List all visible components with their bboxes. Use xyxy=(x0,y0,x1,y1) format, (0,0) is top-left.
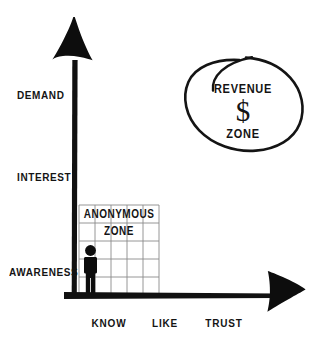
anonymous-zone-label-line2: ZONE xyxy=(79,225,159,237)
diagram-canvas: DEMAND INTEREST AWARENESS KNOW LIKE TRUS… xyxy=(0,0,332,355)
y-axis-arrowhead-icon xyxy=(52,17,92,60)
y-axis-line xyxy=(72,60,78,297)
revenue-zone-label-line2: ZONE xyxy=(203,127,283,140)
y-axis-label-demand: DEMAND xyxy=(17,89,65,101)
x-axis-label-know: KNOW xyxy=(84,317,134,329)
dollar-sign-icon: $ xyxy=(203,97,283,126)
y-axis-label-interest: INTEREST xyxy=(17,171,71,183)
revenue-zone-label-line1: REVENUE xyxy=(203,82,283,95)
person-silhouette-icon xyxy=(84,245,97,294)
x-axis-line xyxy=(64,292,277,299)
x-axis-label-like: LIKE xyxy=(140,317,190,329)
anonymous-zone-label-line1: ANONYMOUS xyxy=(79,208,159,220)
y-axis-label-awareness: AWARENESS xyxy=(9,266,78,278)
x-axis-label-trust: TRUST xyxy=(196,317,252,329)
x-axis-arrowhead-icon xyxy=(267,271,305,312)
